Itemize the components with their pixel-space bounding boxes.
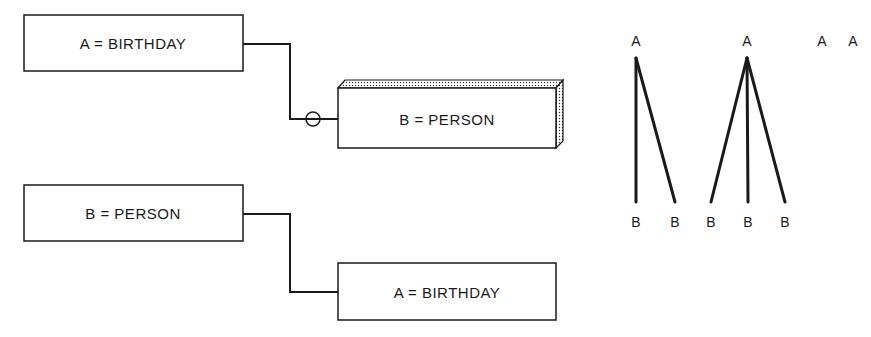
node-label-b: B [780,214,789,230]
tree-one-to-three [711,58,785,202]
box-label: A = BIRTHDAY [80,35,187,52]
tree-one-to-two [636,58,675,202]
node-label-a: A [817,33,827,49]
diagram-canvas: A = BIRTHDAY B = PERSON B = PERSON A = B… [0,0,871,337]
box-a-birthday-bottom: A = BIRTHDAY [338,263,556,320]
box-label: A = BIRTHDAY [394,284,501,301]
box-a-birthday-top: A = BIRTHDAY [24,15,243,71]
connector-optional [243,44,338,126]
connector-plain [243,214,338,292]
box-b-person-bottom: B = PERSON [24,185,243,241]
node-label-a: A [631,33,641,49]
node-label-b: B [631,214,640,230]
tree-bottom-labels: B B B B B [631,214,789,230]
node-label-b: B [743,214,752,230]
box-b-person-3d: B = PERSON [338,80,563,148]
node-label-b: B [706,214,715,230]
tree-top-labels: A A A A [631,33,858,49]
node-label-a: A [742,33,752,49]
node-label-b: B [670,214,679,230]
box-label: B = PERSON [399,111,494,128]
box-label: B = PERSON [85,205,180,222]
node-label-a: A [848,33,858,49]
